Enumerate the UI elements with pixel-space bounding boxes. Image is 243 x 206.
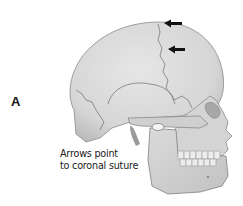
skull-figure: A Arrows point to coronal suture [0,0,243,206]
mastoid-process [130,126,140,146]
ear-canal [152,124,164,131]
mental-foramen [207,176,209,178]
caption: Arrows point to coronal suture [60,148,138,172]
teeth [178,151,220,166]
caption-line-2: to coronal suture [60,160,138,172]
caption-line-1: Arrows point [60,148,138,160]
panel-label: A [11,94,20,109]
skull-illustration [0,0,243,206]
zygomatic-arch [128,116,208,128]
